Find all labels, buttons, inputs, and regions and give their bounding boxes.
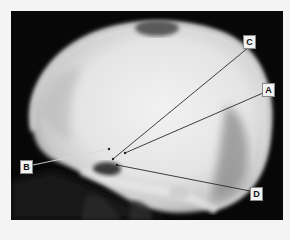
pointer-dot-d xyxy=(116,164,118,166)
label-a: A xyxy=(262,83,275,97)
label-b: B xyxy=(20,160,33,174)
leader-line-b xyxy=(33,149,109,165)
pointer-dot-a xyxy=(124,152,126,154)
label-c: C xyxy=(243,35,256,49)
leader-line-d xyxy=(117,165,250,191)
pointer-dot-c xyxy=(112,158,114,160)
pointer-dot-b xyxy=(108,148,110,150)
leader-line-c xyxy=(113,47,249,159)
label-d: D xyxy=(250,187,263,201)
leader-line-a xyxy=(125,93,263,153)
